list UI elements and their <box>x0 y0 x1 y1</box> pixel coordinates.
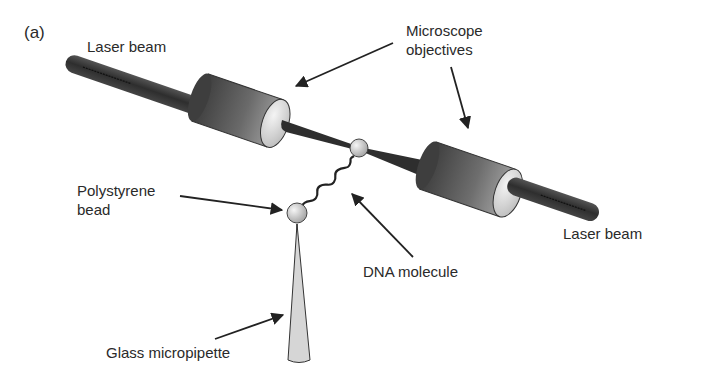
label-laser-beam-right: Laser beam <box>563 225 642 242</box>
glass-micropipette <box>288 224 310 363</box>
label-polystyrene-bead-2: bead <box>77 201 110 218</box>
left-microscope-objective <box>183 71 296 151</box>
label-polystyrene-bead-1: Polystyrene <box>77 182 155 199</box>
optical-tweezers-diagram: (a) Laser beam Mic <box>0 0 702 389</box>
arrow-dna-molecule <box>352 194 413 257</box>
label-microscope-objectives-2: objectives <box>406 41 473 58</box>
arrow-objectives-left <box>296 43 393 86</box>
left-focused-beam-cone <box>281 120 357 150</box>
label-laser-beam-left: Laser beam <box>87 38 166 55</box>
label-glass-micropipette: Glass micropipette <box>106 344 230 361</box>
arrow-objectives-right <box>451 67 468 128</box>
arrow-polystyrene-bead <box>180 196 282 210</box>
label-dna-molecule: DNA molecule <box>363 263 458 280</box>
label-microscope-objectives-1: Microscope <box>406 22 483 39</box>
polystyrene-bead <box>287 203 307 223</box>
trapped-bead <box>350 139 368 157</box>
panel-label: (a) <box>24 23 45 42</box>
arrow-glass-micropipette <box>215 315 283 339</box>
dna-molecule <box>302 156 354 206</box>
